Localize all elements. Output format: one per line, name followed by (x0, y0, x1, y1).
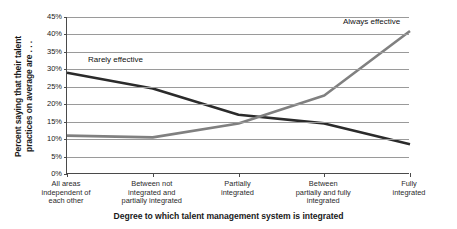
y-axis-tick-label: 20% (47, 100, 62, 108)
series-label-rarely-effective: Rarely effective (88, 55, 143, 64)
y-axis-tick-label: 5% (51, 153, 62, 161)
x-axis-tick-mark (153, 173, 154, 177)
y-axis-tick-label: 35% (47, 48, 62, 56)
x-axis-category-label-line: integrated (367, 189, 451, 198)
y-axis-tick-label: 45% (47, 13, 62, 21)
gridline (67, 139, 409, 140)
x-axis-category-label-line: integrated (196, 189, 280, 198)
y-axis-tick-label: 10% (47, 135, 62, 143)
gridline (67, 87, 409, 88)
gridline (67, 122, 409, 123)
y-axis-title-line-1: Percent saying that their talent (13, 11, 24, 183)
x-axis-tick-mark (324, 173, 325, 177)
x-axis-tick-mark (239, 173, 240, 177)
gridline (67, 69, 409, 70)
gridline (67, 104, 409, 105)
y-axis-tick-label: 15% (47, 118, 62, 126)
y-axis-tick-label: 0% (51, 170, 62, 178)
x-axis-category-label: Partiallyintegrated (196, 180, 280, 197)
y-axis-tick-mark (64, 69, 68, 70)
x-axis-category-label-line: each other (24, 197, 108, 206)
y-axis-tick-mark (64, 104, 68, 105)
gridline (67, 34, 409, 35)
x-axis-tick-mark (410, 173, 411, 177)
x-axis-category-label: All areasindependent ofeach other (24, 180, 108, 206)
y-axis-tick-mark (64, 122, 68, 123)
y-axis-tick-mark (64, 52, 68, 53)
y-axis-tick-mark (64, 139, 68, 140)
line-chart-figure: Percent saying that their talent practic… (0, 0, 457, 229)
x-axis-category-label: Betweenpartially and fullyintegrated (281, 180, 365, 206)
x-axis-title: Degree to which talent management system… (0, 211, 457, 221)
series-line-rarely-effective (67, 73, 410, 145)
series-lines (67, 17, 410, 174)
y-axis-tick-mark (64, 34, 68, 35)
x-axis-category-label: Fullyintegrated (367, 180, 451, 197)
y-axis-tick-mark (64, 87, 68, 88)
y-axis-tick-mark (64, 17, 68, 18)
x-axis-category-label: Between notintegrated andpartially integ… (110, 180, 194, 206)
y-axis-tick-labels: 0%5%10%15%20%25%30%35%40%45% (40, 12, 62, 178)
x-axis-category-labels: All areasindependent ofeach otherBetween… (66, 180, 409, 212)
series-label-always-effective: Always effective (343, 17, 400, 26)
y-axis-tick-label: 40% (47, 30, 62, 38)
x-axis-category-label-line: integrated (281, 197, 365, 206)
y-axis-tick-label: 25% (47, 83, 62, 91)
x-axis-tick-mark (67, 173, 68, 177)
y-axis-title-line-2: practices on average are . . . (23, 11, 34, 183)
y-axis-tick-mark (64, 157, 68, 158)
gridline (67, 157, 409, 158)
y-axis-title: Percent saying that their talent practic… (13, 11, 34, 183)
gridline (67, 52, 409, 53)
plot-area (66, 17, 409, 174)
y-axis-tick-label: 30% (47, 65, 62, 73)
x-axis-category-label-line: partially integrated (110, 197, 194, 206)
